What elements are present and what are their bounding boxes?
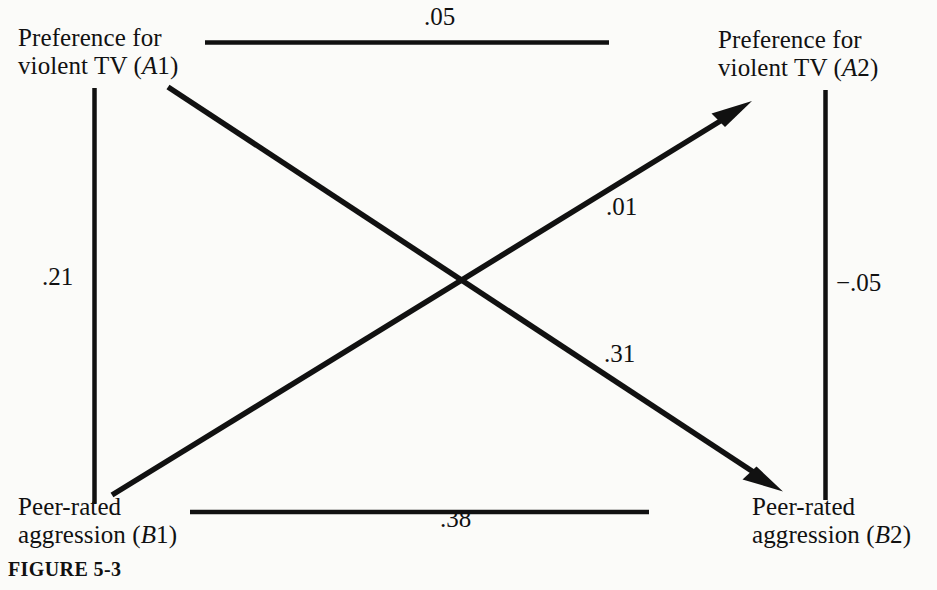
node-a1-variable: A [142,52,157,79]
node-b2-line2: aggression (B2) [752,521,911,548]
node-label-b1: Peer-rated aggression (B1) [18,493,177,549]
node-a2-index: 2 [857,54,870,81]
path-value-a1-b2: .31 [604,341,635,366]
edge-b1-a2-arrow-shaft [112,112,735,495]
figure-panel: Preference for violent TV (A1) Preferenc… [0,0,937,590]
node-b2-line1: Peer-rated [752,493,855,520]
path-value-a1-b1: .21 [42,264,73,289]
path-value-a1-a2: .05 [424,4,455,29]
path-value-b1-b2: .38 [440,506,471,531]
node-a2-variable: A [842,54,857,81]
node-a1-line2: violent TV (A1) [18,52,178,79]
node-a2-line1: Preference for [718,26,862,53]
node-b2-variable: B [875,521,890,548]
node-a1-index: 1 [157,52,170,79]
node-label-a2: Preference for violent TV (A2) [718,26,878,82]
path-value-a2-b2: −.05 [836,270,881,295]
node-a2-line2: violent TV (A2) [718,54,878,81]
path-value-b1-a2: .01 [606,194,637,219]
node-a1-line1: Preference for [18,24,162,51]
node-label-b2: Peer-rated aggression (B2) [752,493,911,549]
node-b1-index: 1 [156,521,169,548]
node-b2-index: 2 [890,521,903,548]
figure-caption: FIGURE 5-3 [8,558,121,581]
node-b1-line1: Peer-rated [18,493,121,520]
node-label-a1: Preference for violent TV (A1) [18,24,178,80]
node-b1-variable: B [141,521,156,548]
node-b1-line2: aggression (B1) [18,521,177,548]
